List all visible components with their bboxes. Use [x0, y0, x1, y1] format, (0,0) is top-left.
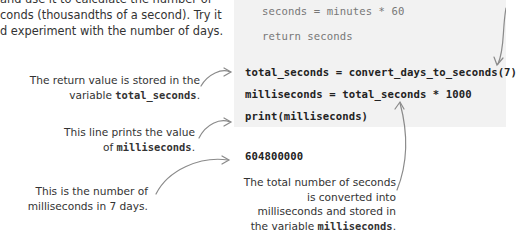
arrow-to-output: [156, 159, 228, 194]
arrow-to-1000: [397, 103, 406, 190]
arrowhead-icon: [494, 57, 503, 65]
arrow-to-function-call: [498, 8, 506, 64]
arrow-to-print: [199, 121, 230, 138]
arrow-to-total-seconds: [201, 71, 230, 86]
arrowhead-icon: [224, 118, 231, 126]
arrowhead-icon: [395, 102, 404, 109]
arrowhead-icon: [224, 68, 231, 76]
